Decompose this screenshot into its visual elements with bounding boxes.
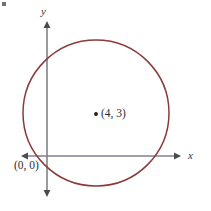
y-axis-top-arrowhead xyxy=(44,21,51,28)
origin-point-label: (0, 0) xyxy=(14,160,39,172)
center-point-marker xyxy=(94,112,98,116)
y-axis-label: y xyxy=(41,6,46,17)
y-axis-bottom-arrowhead xyxy=(44,190,51,197)
x-axis-right-arrowhead xyxy=(174,153,181,160)
coordinate-plane-canvas xyxy=(0,0,211,211)
x-axis-label: x xyxy=(188,150,193,161)
circle-diagram-figure: y x (4, 3) (0, 0) xyxy=(0,0,211,211)
center-point-label: (4, 3) xyxy=(101,108,126,120)
